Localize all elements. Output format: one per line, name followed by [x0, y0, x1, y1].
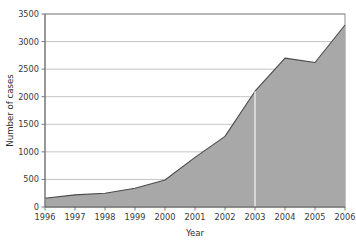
- x-tick-label-2005: 2005: [305, 212, 326, 222]
- area-chart: 0500100015002000250030003500 19961997199…: [0, 0, 356, 243]
- x-tick-label-1996: 1996: [35, 212, 56, 222]
- y-tick-label-3000: 3000: [18, 37, 39, 47]
- x-tick-label-2003: 2003: [245, 212, 266, 222]
- x-tick-label-2004: 2004: [275, 212, 296, 222]
- x-tick-label-2001: 2001: [185, 212, 206, 222]
- y-tick-label-2000: 2000: [18, 92, 39, 102]
- y-tick-label-1500: 1500: [18, 119, 39, 129]
- y-tick-label-2500: 2500: [18, 64, 39, 74]
- y-tick-label-500: 500: [23, 174, 39, 184]
- y-tick-label-3500: 3500: [18, 9, 39, 19]
- y-axis-title: Number of cases: [5, 74, 15, 147]
- y-tick-label-0: 0: [34, 202, 39, 212]
- x-tick-label-1997: 1997: [65, 212, 86, 222]
- x-tick-label-2000: 2000: [155, 212, 176, 222]
- x-tick-label-2002: 2002: [215, 212, 236, 222]
- x-axis-tick-labels: 1996199719981999200020012002200320042005…: [35, 212, 356, 222]
- x-tick-label-1999: 1999: [125, 212, 146, 222]
- chart-figure: 0500100015002000250030003500 19961997199…: [0, 0, 356, 243]
- y-tick-label-1000: 1000: [18, 147, 39, 157]
- x-tick-label-2006: 2006: [335, 212, 356, 222]
- x-tick-label-1998: 1998: [95, 212, 116, 222]
- x-axis-title: Year: [185, 228, 205, 238]
